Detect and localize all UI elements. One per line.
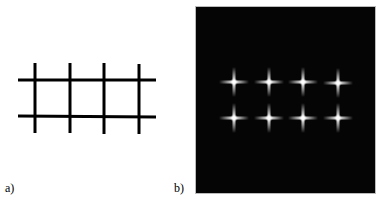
glow-point: [254, 103, 284, 133]
glow-point: [219, 103, 249, 133]
glow-point: [323, 103, 353, 133]
glow-point: [288, 67, 318, 97]
glow-points-graphic: [0, 0, 380, 202]
glow-point: [219, 67, 249, 97]
panel-b-label: b): [174, 181, 184, 196]
glow-point: [288, 103, 318, 133]
glow-point: [254, 67, 284, 97]
glow-point: [323, 68, 353, 98]
